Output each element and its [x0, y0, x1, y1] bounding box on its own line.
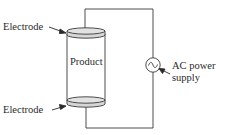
ac-supply-arrowhead	[159, 69, 165, 74]
top-electrode-disc	[67, 28, 105, 38]
bottom-electrode-label: Electrode	[3, 104, 43, 115]
top-electrode-label: Electrode	[3, 21, 43, 32]
product-label: Product	[70, 56, 103, 67]
circuit-wires	[85, 9, 153, 128]
ac-source-symbol	[146, 58, 160, 72]
bottom-electrode-disc	[67, 97, 105, 107]
bottom-electrode-arrowhead	[60, 105, 67, 110]
ohmic-heating-diagram: Electrode Product Electrode AC power sup…	[0, 0, 239, 135]
ac-supply-label-line1: AC power	[172, 60, 215, 71]
top-electrode-arrowhead	[60, 29, 67, 34]
product-cylinder	[67, 34, 105, 101]
ac-supply-label-line2: supply	[172, 72, 200, 83]
